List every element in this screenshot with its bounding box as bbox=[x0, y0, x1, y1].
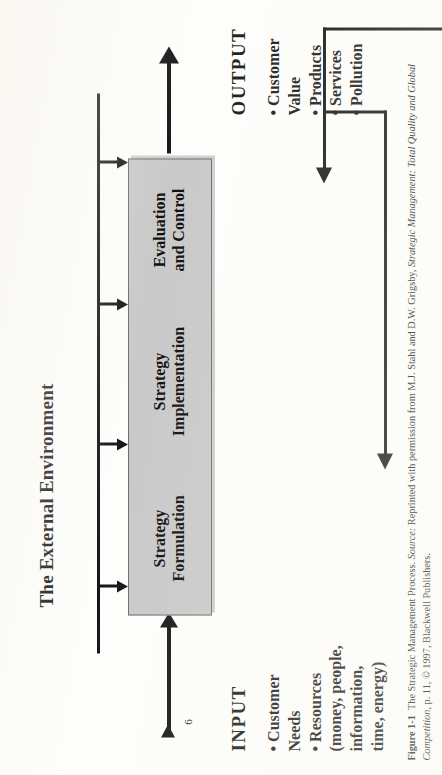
list-item: information, bbox=[347, 491, 368, 751]
figure-caption: Figure 1-1 The Strategic Management Proc… bbox=[405, 15, 434, 760]
process-box: Strategy Formulation Strategy Implementa… bbox=[128, 158, 212, 615]
list-item: time, energy) bbox=[368, 491, 389, 751]
output-arrow-shaft bbox=[167, 55, 171, 153]
list-item: Services bbox=[326, 0, 347, 115]
caption-figure-number: Figure 1-1 bbox=[406, 715, 417, 760]
output-arrow-head bbox=[159, 46, 179, 63]
stage-line-2: Implementation bbox=[170, 326, 189, 435]
caption-title: The Strategic Management Process. bbox=[406, 561, 417, 709]
input-arrow-shaft bbox=[167, 623, 171, 731]
output-list: Customer Value Products Services Polluti… bbox=[264, 0, 368, 115]
list-item: Resources bbox=[306, 491, 327, 751]
stage-strategy-formulation: Strategy Formulation bbox=[129, 462, 211, 614]
outer-feedback-top-segment bbox=[323, 27, 326, 175]
input-heading: INPUT bbox=[228, 685, 250, 751]
external-environment-rule bbox=[97, 93, 100, 653]
stage-line-1: Strategy bbox=[151, 509, 170, 567]
inner-feedback-horizontal-segment bbox=[384, 110, 387, 455]
stage-strategy-implementation: Strategy Implementation bbox=[129, 300, 211, 462]
inner-feedback-arrow-head bbox=[377, 453, 393, 469]
caption-source-label: Source: bbox=[406, 527, 417, 559]
environment-arrow-1 bbox=[97, 584, 119, 587]
inner-feedback-vertical-segment bbox=[326, 110, 386, 113]
output-heading: OUTPUT bbox=[228, 27, 250, 115]
list-item: Pollution bbox=[347, 0, 368, 115]
environment-arrow-3 bbox=[97, 302, 119, 305]
caption-source-text-1: Reprinted with permission from M.J. Stah… bbox=[406, 269, 417, 525]
outer-feedback-arrow-head-right bbox=[316, 167, 332, 183]
figure-diagram: The External Environment Strategy Formul… bbox=[0, 0, 442, 775]
list-item: (money, people, bbox=[326, 491, 347, 751]
stage-line-1: Strategy bbox=[151, 352, 170, 410]
figure-caption-area: Figure 1-1 The Strategic Management Proc… bbox=[398, 0, 442, 775]
list-item: Customer Needs bbox=[264, 491, 306, 751]
environment-arrow-2 bbox=[97, 442, 119, 445]
stage-line-2: Formulation bbox=[170, 495, 189, 581]
list-item: Customer Value bbox=[264, 0, 306, 115]
external-environment-label: The External Environment bbox=[36, 383, 58, 607]
caption-source-text-2: , p. 11, © 1997, Blackwell Publishers. bbox=[421, 553, 432, 709]
input-list: Customer Needs Resources (money, people,… bbox=[264, 491, 389, 751]
stage-evaluation-and-control: Evaluation and Control bbox=[129, 159, 211, 300]
stage-line-1: Evaluation bbox=[151, 192, 170, 267]
stage-line-2: and Control bbox=[170, 188, 189, 271]
environment-arrow-4 bbox=[97, 160, 119, 163]
page-number: 6 bbox=[182, 710, 194, 734]
